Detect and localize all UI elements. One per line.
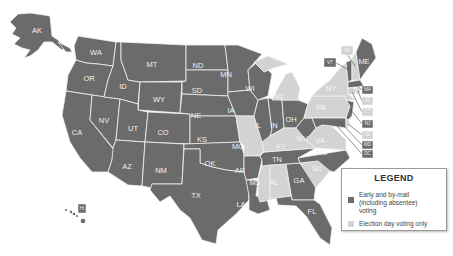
label-wa: WA bbox=[90, 48, 102, 57]
callout-box-md[interactable]: MD bbox=[362, 141, 373, 149]
callout-box-hi[interactable]: HI bbox=[78, 204, 86, 213]
label-fl: FL bbox=[308, 207, 317, 216]
label-ny: NY bbox=[326, 84, 336, 93]
label-nv: NV bbox=[99, 116, 109, 125]
svg-text:DE: DE bbox=[364, 132, 370, 137]
legend-item-early-voting: Early and by-mail (including absentee) v… bbox=[348, 191, 440, 215]
callout-box-de[interactable]: DE bbox=[362, 131, 373, 139]
label-tx: TX bbox=[191, 191, 201, 200]
svg-text:RI: RI bbox=[365, 98, 370, 103]
label-pa: PA bbox=[316, 103, 325, 112]
callout-box-ri[interactable]: RI bbox=[362, 97, 373, 105]
label-tn: TN bbox=[272, 155, 282, 164]
svg-text:MD: MD bbox=[364, 142, 372, 147]
state-pa[interactable] bbox=[304, 96, 350, 118]
svg-text:NH: NH bbox=[344, 48, 351, 53]
state-ma[interactable] bbox=[348, 80, 364, 88]
svg-text:NJ: NJ bbox=[365, 121, 371, 126]
label-mo: MO bbox=[232, 142, 244, 151]
label-wv: WV bbox=[296, 134, 308, 143]
label-la: LA bbox=[236, 200, 245, 209]
label-ne: NE bbox=[191, 111, 201, 120]
legend-swatch-eday bbox=[348, 221, 354, 227]
label-nc: NC bbox=[317, 148, 328, 157]
label-sd: SD bbox=[192, 86, 203, 95]
label-wy: WY bbox=[153, 95, 165, 104]
label-id: ID bbox=[119, 82, 127, 91]
label-me: ME bbox=[358, 57, 369, 66]
legend-swatch-early bbox=[348, 197, 354, 203]
state-fl[interactable] bbox=[276, 196, 332, 245]
label-ms: MS bbox=[249, 178, 260, 187]
state-ak[interactable] bbox=[10, 13, 66, 58]
legend-title: LEGEND bbox=[342, 173, 446, 183]
callout-box-ct[interactable]: CT bbox=[362, 108, 373, 116]
legend-label-eday: Election day voting only bbox=[359, 220, 427, 228]
label-ca: CA bbox=[72, 128, 82, 137]
label-ia: IA bbox=[227, 106, 234, 115]
legend-item-election-day: Election day voting only bbox=[348, 220, 448, 228]
label-ky: KY bbox=[276, 142, 286, 151]
label-sc: SC bbox=[312, 164, 323, 173]
label-mt: MT bbox=[147, 60, 158, 69]
svg-text:HI: HI bbox=[80, 206, 85, 211]
callout-box-nh[interactable]: NH bbox=[341, 46, 353, 55]
label-in: IN bbox=[270, 121, 278, 130]
label-nm: NM bbox=[155, 166, 167, 175]
state-ct[interactable] bbox=[348, 88, 356, 94]
label-il: IL bbox=[255, 121, 261, 130]
label-nd: ND bbox=[193, 61, 204, 70]
label-mi: MI bbox=[275, 92, 283, 101]
label-ar: AR bbox=[235, 166, 246, 175]
svg-text:DC: DC bbox=[364, 151, 371, 156]
label-ak: AK bbox=[32, 26, 42, 35]
callout-box-vt[interactable]: VT bbox=[324, 58, 336, 67]
callout-box-dc[interactable]: DC bbox=[362, 150, 373, 158]
svg-text:VT: VT bbox=[327, 60, 333, 65]
label-al: AL bbox=[269, 178, 278, 187]
label-az: AZ bbox=[122, 162, 132, 171]
legend-label-early: Early and by-mail (including absentee) v… bbox=[359, 191, 429, 215]
map-legend: LEGEND Early and by-mail (including abse… bbox=[341, 168, 447, 231]
label-mn: MN bbox=[220, 70, 232, 79]
svg-text:CT: CT bbox=[365, 109, 371, 114]
label-ut: UT bbox=[128, 124, 138, 133]
callout-box-ma[interactable]: MA bbox=[362, 86, 373, 94]
label-co: CO bbox=[157, 128, 168, 137]
label-or: OR bbox=[83, 74, 95, 83]
label-va: VA bbox=[315, 136, 324, 145]
callout-box-nj[interactable]: NJ bbox=[362, 120, 373, 128]
label-ok: OK bbox=[205, 159, 216, 168]
label-ks: KS bbox=[197, 135, 207, 144]
label-wi: WI bbox=[245, 84, 254, 93]
label-ga: GA bbox=[294, 176, 305, 185]
svg-text:MA: MA bbox=[364, 87, 371, 92]
label-oh: OH bbox=[285, 115, 296, 124]
